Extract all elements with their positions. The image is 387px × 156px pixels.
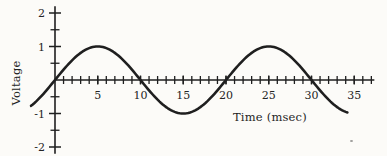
sine-wave-plot: 510152025303521-1-2 (0, 0, 387, 156)
x-axis-label: Time (msec) (233, 110, 307, 124)
x-tick-label: 35 (347, 89, 361, 102)
y-tick-label: -1 (34, 108, 45, 121)
x-tick-label: 30 (305, 89, 319, 102)
waveform-figure: 510152025303521-1-2 Voltage Time (msec) (0, 0, 387, 156)
x-tick-label: 20 (219, 89, 233, 102)
x-tick-label: 5 (94, 89, 101, 102)
y-tick-label: 2 (38, 7, 45, 20)
y-tick-label: 1 (38, 41, 45, 54)
ink-speck (350, 140, 353, 142)
x-tick-label: 10 (134, 89, 148, 102)
x-tick-label: 15 (176, 89, 190, 102)
x-tick-label: 25 (262, 89, 276, 102)
y-tick-label: -2 (34, 141, 45, 154)
y-axis-label: Voltage (9, 53, 23, 113)
